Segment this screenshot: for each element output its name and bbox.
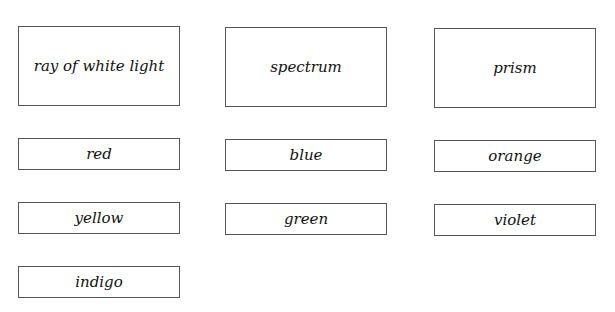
card-yellow[interactable]: yellow bbox=[18, 202, 180, 234]
card-green[interactable]: green bbox=[225, 203, 387, 235]
card-label: prism bbox=[493, 59, 537, 77]
card-label: spectrum bbox=[270, 58, 342, 76]
card-blue[interactable]: blue bbox=[225, 139, 387, 171]
card-label: red bbox=[86, 145, 112, 163]
card-ray-of-white-light[interactable]: ray of white light bbox=[18, 26, 180, 106]
card-orange[interactable]: orange bbox=[434, 140, 596, 172]
card-label: yellow bbox=[75, 209, 124, 227]
card-label: ray of white light bbox=[34, 57, 165, 75]
card-label: orange bbox=[488, 147, 541, 165]
card-indigo[interactable]: indigo bbox=[18, 266, 180, 298]
card-red[interactable]: red bbox=[18, 138, 180, 170]
card-label: blue bbox=[290, 146, 323, 164]
card-prism[interactable]: prism bbox=[434, 28, 596, 108]
card-label: violet bbox=[494, 211, 536, 229]
card-label: indigo bbox=[75, 273, 123, 291]
card-label: green bbox=[284, 210, 328, 228]
card-violet[interactable]: violet bbox=[434, 204, 596, 236]
card-spectrum[interactable]: spectrum bbox=[225, 27, 387, 107]
